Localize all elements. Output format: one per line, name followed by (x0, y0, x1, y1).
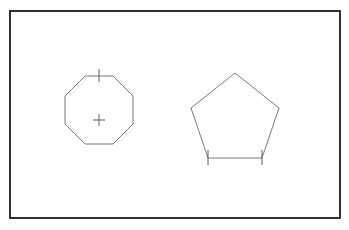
drawing-border (10, 11, 340, 218)
pentagon-group[interactable] (191, 73, 279, 165)
octagon-center-crosshair (93, 114, 105, 126)
octagon-shape[interactable] (65, 76, 133, 144)
drawing-surface (0, 0, 349, 230)
pentagon-shape[interactable] (191, 73, 279, 158)
drawing-canvas (0, 0, 349, 230)
octagon-group[interactable] (65, 69, 133, 144)
